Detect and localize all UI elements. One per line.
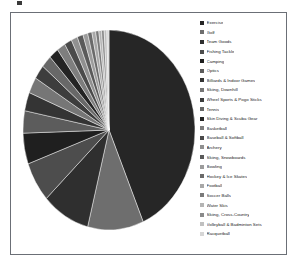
legend-item[interactable]: Soccer Balls [199,191,287,201]
legend-swatch-icon [200,174,204,178]
legend-item[interactable]: Basketball [199,124,287,134]
legend-item-label: Skiing, Downhill [207,87,238,92]
legend-swatch-icon [200,184,204,188]
legend-swatch-icon [200,107,204,111]
legend-item[interactable]: Archery [199,143,287,153]
legend-swatch-icon [200,232,204,236]
legend-swatch-icon [200,155,204,159]
legend-item[interactable]: Team Goods [199,37,287,47]
legend-swatch-icon [200,78,204,82]
legend-item[interactable]: Football [199,181,287,191]
legend-item-label: Golf [207,30,215,35]
legend-item[interactable]: Optics [199,66,287,76]
legend-item-label: Camping [207,59,225,64]
legend-item-label: Archery [207,145,222,150]
legend-item[interactable]: Skiing, Cross-Country [199,210,287,220]
legend-swatch-icon [200,126,204,130]
chart-legend: ExerciseGolfTeam GoodsFishing TackleCamp… [199,18,287,252]
legend-item[interactable]: Camping [199,56,287,66]
legend-swatch-icon [200,50,204,54]
legend-item-label: Soccer Balls [207,193,232,198]
legend-item-label: Bowling [207,164,222,169]
legend-item[interactable]: Volleyball & Badminton Sets [199,219,287,229]
legend-swatch-icon [200,203,204,207]
legend-item[interactable]: Billiards & Indoor Games [199,76,287,86]
top-artifact-mark [17,1,22,5]
legend-item[interactable]: Wheel Sports & Pogo Sticks [199,95,287,105]
legend-item[interactable]: Racquetball [199,229,287,239]
legend-item[interactable]: Skiing, Downhill [199,85,287,95]
legend-item-label: Hockey & Ice Skates [207,174,248,179]
legend-item-label: Basketball [207,126,227,131]
legend-item[interactable]: Exercise [199,18,287,28]
legend-item-label: Tennis [207,107,220,112]
legend-swatch-icon [200,30,204,34]
legend-swatch-icon [200,213,204,217]
legend-swatch-icon [200,21,204,25]
legend-item-label: Football [207,183,223,188]
legend-item-label: Volleyball & Badminton Sets [207,222,262,227]
legend-item-label: Water Skis [207,203,228,208]
legend-item-label: Racquetball [207,231,230,236]
legend-item[interactable]: Tennis [199,104,287,114]
pie-chart [23,30,195,230]
legend-item[interactable]: Golf [199,28,287,38]
legend-item-label: Team Goods [207,39,232,44]
legend-item[interactable]: Skiing, Snowboards [199,152,287,162]
chart-frame: ExerciseGolfTeam GoodsFishing TackleCamp… [10,12,287,255]
legend-item[interactable]: Water Skis [199,200,287,210]
chart-screenshot: ExerciseGolfTeam GoodsFishing TackleCamp… [0,0,298,264]
legend-item-label: Fishing Tackle [207,49,235,54]
legend-swatch-icon [200,98,204,102]
legend-item-label: Skiing, Snowboards [207,155,246,160]
legend-swatch-icon [200,145,204,149]
legend-swatch-icon [200,165,204,169]
legend-swatch-icon [200,117,204,121]
legend-item-label: Optics [207,68,220,73]
legend-item[interactable]: Fishing Tackle [199,47,287,57]
legend-swatch-icon [200,88,204,92]
legend-item-label: Wheel Sports & Pogo Sticks [207,97,262,102]
legend-item-label: Baseball & Softball [207,135,244,140]
legend-item-label: Billiards & Indoor Games [207,78,256,83]
legend-swatch-icon [200,222,204,226]
legend-item-label: Skiing, Cross-Country [207,212,250,217]
legend-swatch-icon [200,59,204,63]
legend-item[interactable]: Baseball & Softball [199,133,287,143]
legend-item-label: Exercise [207,20,224,25]
pie-svg [23,30,195,230]
legend-swatch-icon [200,193,204,197]
legend-swatch-icon [200,40,204,44]
legend-item-label: Skin Diving & Scuba Gear [207,116,258,121]
legend-item[interactable]: Bowling [199,162,287,172]
plot-area [11,13,197,254]
legend-item[interactable]: Hockey & Ice Skates [199,172,287,182]
legend-item[interactable]: Skin Diving & Scuba Gear [199,114,287,124]
legend-swatch-icon [200,69,204,73]
legend-swatch-icon [200,136,204,140]
